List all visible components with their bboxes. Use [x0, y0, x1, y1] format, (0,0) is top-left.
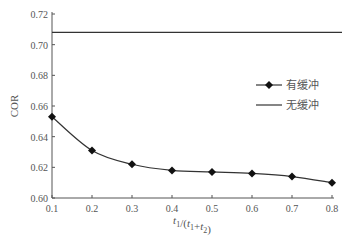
x-tick-label: 0.7 — [286, 203, 299, 214]
legend-diamond-icon — [265, 81, 273, 89]
diamond-marker-icon — [328, 179, 336, 187]
x-tick-label: 0.6 — [246, 203, 259, 214]
x-axis-label: t1/(t1+t2) — [173, 214, 211, 236]
x-tick-label: 0.3 — [126, 203, 139, 214]
diamond-marker-icon — [168, 166, 176, 174]
y-tick-label: 0.72 — [31, 9, 49, 20]
x-tick-label: 0.2 — [86, 203, 99, 214]
legend-label-1: 无缓冲 — [286, 98, 319, 111]
diamond-marker-icon — [288, 173, 296, 181]
y-tick-label: 0.70 — [31, 40, 49, 51]
line-chart: 0.600.620.640.660.680.700.720.10.20.30.4… — [0, 0, 348, 240]
diamond-marker-icon — [248, 169, 256, 177]
axes: 0.600.620.640.660.680.700.720.10.20.30.4… — [31, 9, 339, 214]
x-tick-label: 0.8 — [326, 203, 339, 214]
diamond-marker-icon — [88, 146, 96, 154]
x-tick-label: 0.5 — [206, 203, 219, 214]
y-tick-label: 0.68 — [31, 70, 49, 81]
legend: 有缓冲无缓冲 — [256, 78, 319, 111]
diamond-marker-icon — [208, 168, 216, 176]
x-tick-label: 0.1 — [46, 203, 59, 214]
y-tick-label: 0.66 — [31, 101, 49, 112]
legend-label-0: 有缓冲 — [286, 78, 319, 91]
y-tick-label: 0.62 — [31, 162, 49, 173]
y-tick-label: 0.64 — [31, 132, 49, 143]
y-axis-label: COR — [8, 94, 20, 117]
x-tick-label: 0.4 — [166, 203, 179, 214]
diamond-marker-icon — [128, 160, 136, 168]
